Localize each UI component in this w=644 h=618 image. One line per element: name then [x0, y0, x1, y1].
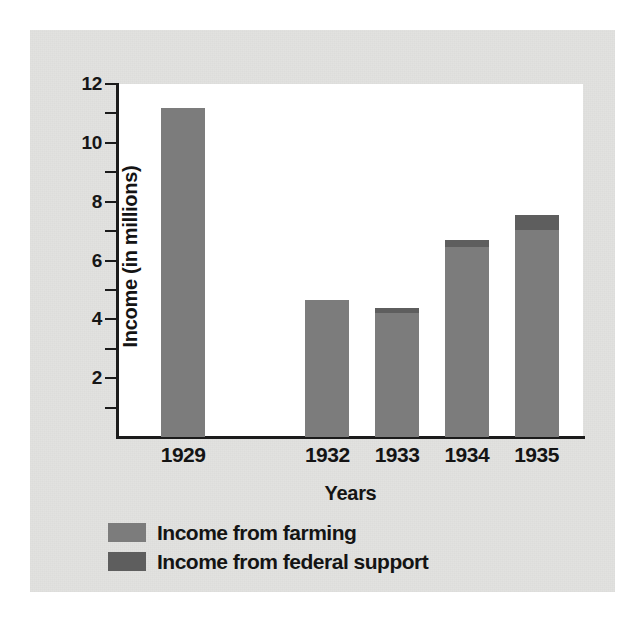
bar-1935	[515, 215, 559, 437]
y-tick-7	[105, 230, 118, 232]
x-axis-label-1929: 1929	[143, 443, 223, 467]
bar-segment-federal-support-1934	[445, 240, 489, 247]
y-tick-1	[105, 407, 118, 409]
x-axis-label-1933: 1933	[357, 443, 437, 467]
y-tick-3	[105, 348, 118, 350]
y-tick-4	[105, 318, 118, 320]
y-tick-9	[105, 171, 118, 173]
y-tick-6	[105, 260, 118, 262]
bar-1929	[161, 108, 205, 437]
legend-swatch-federal-support	[108, 552, 146, 571]
bars-layer	[118, 84, 583, 437]
legend-item-farming: Income from farming	[108, 518, 428, 547]
legend-item-federal-support: Income from federal support	[108, 547, 428, 576]
x-axis-label-1932: 1932	[287, 443, 367, 467]
y-tick-8	[105, 201, 118, 203]
y-tick-12	[105, 83, 118, 85]
y-tick-11	[105, 112, 118, 114]
bar-1934	[445, 240, 489, 437]
y-tick-2	[105, 377, 118, 379]
y-axis-title: Income (in millions)	[119, 142, 142, 372]
x-axis-label-1934: 1934	[427, 443, 507, 467]
legend-label-federal-support: Income from federal support	[157, 550, 428, 574]
x-axis-title: Years	[118, 482, 583, 505]
x-axis-label-1935: 1935	[497, 443, 577, 467]
legend-swatch-farming	[108, 523, 146, 542]
y-tick-5	[105, 289, 118, 291]
bar-segment-federal-support-1933	[375, 308, 419, 314]
y-tick-10	[105, 142, 118, 144]
legend: Income from farming Income from federal …	[108, 518, 428, 576]
bar-1933	[375, 308, 419, 437]
y-axis-title-box: Income (in millions)	[65, 0, 95, 500]
bar-segment-federal-support-1935	[515, 215, 559, 230]
legend-label-farming: Income from farming	[157, 521, 356, 545]
bar-1932	[305, 300, 349, 437]
figure-root: 24681012 19291932193319341935 Years Inco…	[0, 0, 644, 618]
